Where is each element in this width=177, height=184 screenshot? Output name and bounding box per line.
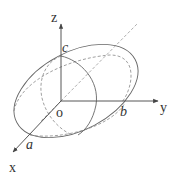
equator-dashed xyxy=(14,55,131,111)
diagonal-dashed-axis xyxy=(61,23,138,101)
y-axis-label: y xyxy=(160,100,167,115)
lower-dashed-arc xyxy=(30,103,125,136)
ellipsoid-outline xyxy=(0,25,153,157)
x-axis-label: x xyxy=(9,160,16,175)
semi-axis-a-label: a xyxy=(26,137,33,152)
semi-axis-b-label: b xyxy=(120,104,127,119)
origin-label: o xyxy=(56,105,63,120)
x-axis xyxy=(13,101,61,152)
semi-axis-c-label: c xyxy=(62,40,69,55)
z-axis-label: z xyxy=(51,10,57,25)
ellipsoid-diagram: z y x o c b a xyxy=(0,0,177,184)
meridian-dashed xyxy=(41,56,70,134)
